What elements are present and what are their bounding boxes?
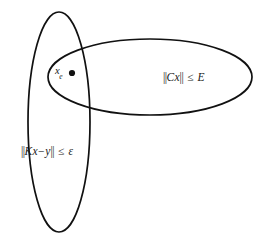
relation-leq: ≤ [57, 145, 65, 157]
variable-symbol-x: x [32, 145, 37, 157]
solution-point-marker [69, 70, 75, 76]
right-ellipse-label: ||Cx|| ≤ E [163, 72, 205, 84]
bound-symbol-epsilon: ε [68, 145, 73, 157]
solution-point-subscript: e [59, 72, 62, 81]
left-ellipse-data-fidelity-set [28, 12, 90, 232]
right-ellipse-regularization-set [48, 39, 252, 115]
bound-symbol-e: E [198, 71, 205, 83]
norm-close-bars: || [180, 71, 184, 83]
norm-close-bars: || [50, 145, 54, 157]
solution-point-label: xe [55, 66, 63, 79]
venn-diagram-canvas [0, 0, 271, 243]
left-ellipse-label: ||Kx−y|| ≤ ε [21, 146, 73, 158]
relation-leq: ≤ [186, 71, 194, 83]
constraint-diagram: xe ||Cx|| ≤ E ||Kx−y|| ≤ ε [0, 0, 271, 243]
